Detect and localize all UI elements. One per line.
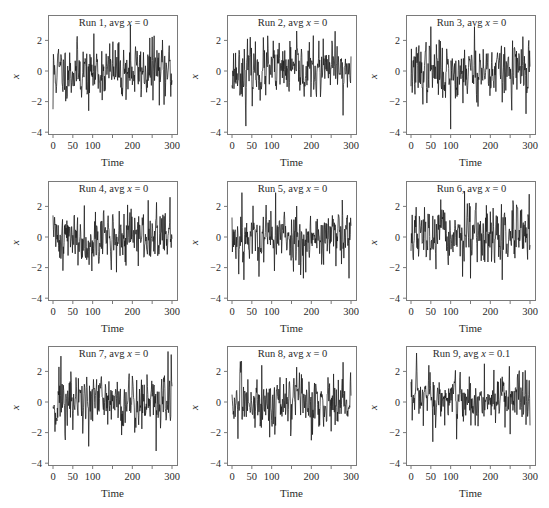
panel-run-8: Run 8, avg x = 0−4−202050100200300Timex bbox=[188, 347, 359, 500]
y-tick-label: 0 bbox=[216, 232, 221, 243]
y-tick-label: −2 bbox=[31, 262, 42, 273]
panel-run-2: Run 2, avg x = 0−4−202050100200300Timex bbox=[188, 16, 359, 169]
x-tick-label: 50 bbox=[247, 471, 258, 482]
x-tick-label: 100 bbox=[264, 306, 280, 317]
x-tick-label: 300 bbox=[343, 140, 359, 151]
y-tick-label: −4 bbox=[31, 127, 42, 138]
y-tick-label: 0 bbox=[37, 397, 42, 408]
x-tick-label: 200 bbox=[124, 306, 140, 317]
y-axis-label: x bbox=[367, 74, 379, 80]
y-tick-label: 2 bbox=[37, 201, 42, 212]
y-axis-label: x bbox=[367, 240, 379, 246]
x-tick-label: 200 bbox=[482, 140, 498, 151]
panel-run-4: Run 4, avg x = 0−4−202050100200300Timex bbox=[9, 182, 180, 335]
x-tick-label: 50 bbox=[426, 471, 437, 482]
y-tick-label: 0 bbox=[395, 66, 400, 77]
panel-run-5: Run 5, avg x = 0−4−202050100200300Timex bbox=[188, 182, 359, 335]
x-tick-label: 200 bbox=[124, 471, 140, 482]
x-axis-label: Time bbox=[459, 322, 482, 334]
x-tick-label: 300 bbox=[164, 471, 180, 482]
y-tick-label: 2 bbox=[216, 35, 221, 46]
y-tick-label: −2 bbox=[210, 427, 221, 438]
y-axis-label: x bbox=[188, 240, 200, 246]
series-line bbox=[232, 193, 351, 280]
y-tick-label: −2 bbox=[210, 96, 221, 107]
y-tick-label: −2 bbox=[389, 262, 400, 273]
x-tick-label: 100 bbox=[443, 140, 459, 151]
x-tick-label: 50 bbox=[426, 140, 437, 151]
series-line bbox=[53, 197, 172, 272]
y-tick-label: −4 bbox=[31, 458, 42, 469]
x-tick-label: 100 bbox=[443, 471, 459, 482]
panel-title: Run 9, avg x = 0.1 bbox=[433, 348, 510, 359]
x-tick-label: 100 bbox=[85, 140, 101, 151]
x-tick-label: 100 bbox=[85, 306, 101, 317]
x-tick-label: 0 bbox=[408, 306, 413, 317]
panel-run-3: Run 3, avg x = 0−4−202050100200300Timex bbox=[367, 16, 538, 169]
x-tick-label: 200 bbox=[124, 140, 140, 151]
y-tick-label: 2 bbox=[395, 366, 400, 377]
x-axis-label: Time bbox=[459, 156, 482, 168]
y-axis-label: x bbox=[188, 74, 200, 80]
x-tick-label: 50 bbox=[247, 140, 258, 151]
y-axis-label: x bbox=[9, 240, 21, 246]
panel-run-7: Run 7, avg x = 0−4−202050100200300Timex bbox=[9, 347, 180, 500]
x-tick-label: 0 bbox=[229, 306, 234, 317]
panel-title: Run 8, avg x = 0 bbox=[258, 348, 328, 359]
x-axis-label: Time bbox=[280, 156, 303, 168]
panel-title: Run 6, avg x = 0 bbox=[437, 183, 507, 194]
y-axis-label: x bbox=[367, 405, 379, 411]
panel-run-9: Run 9, avg x = 0.1−4−202050100200300Time… bbox=[367, 347, 538, 500]
x-axis-label: Time bbox=[280, 322, 303, 334]
panel-title: Run 1, avg x = 0 bbox=[79, 17, 149, 28]
panel-title: Run 2, avg x = 0 bbox=[258, 17, 328, 28]
x-axis-label: Time bbox=[459, 487, 482, 499]
y-axis-label: x bbox=[9, 405, 21, 411]
x-tick-label: 50 bbox=[68, 306, 79, 317]
y-tick-label: −2 bbox=[210, 262, 221, 273]
series-line bbox=[411, 353, 530, 442]
y-tick-label: −2 bbox=[389, 427, 400, 438]
x-tick-label: 50 bbox=[426, 306, 437, 317]
series-line bbox=[411, 27, 530, 130]
x-tick-label: 200 bbox=[303, 471, 319, 482]
x-tick-label: 300 bbox=[343, 306, 359, 317]
panel-run-1: Run 1, avg x = 0−4−202050100200300Timex bbox=[9, 16, 180, 169]
x-axis-label: Time bbox=[280, 487, 303, 499]
y-tick-label: −4 bbox=[210, 458, 221, 469]
x-axis-label: Time bbox=[101, 322, 124, 334]
x-tick-label: 0 bbox=[50, 306, 55, 317]
series-line bbox=[232, 31, 351, 126]
x-tick-label: 300 bbox=[522, 471, 538, 482]
x-tick-label: 0 bbox=[229, 471, 234, 482]
x-tick-label: 300 bbox=[343, 471, 359, 482]
chart-canvas: Run 1, avg x = 0−4−202050100200300TimexR… bbox=[0, 0, 549, 508]
x-tick-label: 100 bbox=[443, 306, 459, 317]
y-tick-label: 2 bbox=[37, 366, 42, 377]
y-tick-label: −4 bbox=[389, 293, 400, 304]
x-tick-label: 300 bbox=[522, 140, 538, 151]
x-axis-label: Time bbox=[101, 156, 124, 168]
x-axis-label: Time bbox=[101, 487, 124, 499]
x-tick-label: 0 bbox=[50, 471, 55, 482]
x-tick-label: 0 bbox=[408, 471, 413, 482]
x-tick-label: 0 bbox=[229, 140, 234, 151]
y-tick-label: 0 bbox=[216, 66, 221, 77]
panel-title: Run 4, avg x = 0 bbox=[79, 183, 149, 194]
panel-run-6: Run 6, avg x = 0−4−202050100200300Timex bbox=[367, 182, 538, 335]
panel-title: Run 7, avg x = 0 bbox=[79, 348, 149, 359]
panel-title: Run 5, avg x = 0 bbox=[258, 183, 328, 194]
y-tick-label: 2 bbox=[395, 201, 400, 212]
y-tick-label: 2 bbox=[395, 35, 400, 46]
series-line bbox=[232, 361, 351, 440]
y-axis-label: x bbox=[188, 405, 200, 411]
y-tick-label: 0 bbox=[216, 397, 221, 408]
figure-grid: Run 1, avg x = 0−4−202050100200300TimexR… bbox=[0, 0, 549, 508]
x-tick-label: 100 bbox=[264, 471, 280, 482]
series-line bbox=[53, 352, 172, 451]
y-tick-label: −4 bbox=[389, 458, 400, 469]
panel-title: Run 3, avg x = 0 bbox=[437, 17, 507, 28]
y-tick-label: −4 bbox=[389, 127, 400, 138]
y-tick-label: −4 bbox=[210, 127, 221, 138]
y-tick-label: 0 bbox=[395, 397, 400, 408]
